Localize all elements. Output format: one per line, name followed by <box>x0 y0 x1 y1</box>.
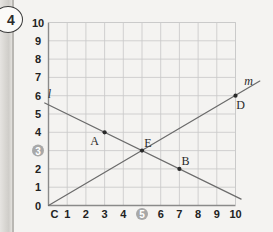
scanned-page: 4 ABDE lm C12345678910 012345678910 <box>0 0 273 232</box>
grid-lines <box>49 23 236 206</box>
line-label-m: m <box>244 74 253 88</box>
point-labels: ABDE <box>90 98 245 168</box>
x-tick-4: 4 <box>120 208 127 220</box>
x-axis-tick-labels: C12345678910 <box>51 208 242 220</box>
y-tick-3: 3 <box>35 146 41 157</box>
y-tick-0: 0 <box>35 200 41 212</box>
x-tick-10: 10 <box>229 208 241 220</box>
y-tick-9: 9 <box>35 35 41 47</box>
point-label-e: E <box>144 136 151 150</box>
x-tick-7: 7 <box>176 208 182 220</box>
x-tick-1: 1 <box>64 208 70 220</box>
y-tick-5: 5 <box>35 108 41 120</box>
y-tick-6: 6 <box>35 90 41 102</box>
x-tick-5: 5 <box>139 209 145 220</box>
x-tick-9: 9 <box>214 208 220 220</box>
y-tick-10: 10 <box>32 17 44 29</box>
x-tick-8: 8 <box>195 208 201 220</box>
graph-svg: ABDE lm C12345678910 012345678910 <box>0 0 273 232</box>
y-tick-2: 2 <box>35 163 41 175</box>
x-tick-C: C <box>51 208 59 220</box>
x-tick-3: 3 <box>102 208 108 220</box>
point-label-d: D <box>236 98 245 112</box>
y-tick-8: 8 <box>35 53 41 65</box>
y-tick-4: 4 <box>35 126 42 138</box>
y-tick-1: 1 <box>35 181 41 193</box>
x-tick-6: 6 <box>158 208 164 220</box>
x-tick-2: 2 <box>83 208 89 220</box>
coordinate-graph: ABDE lm C12345678910 012345678910 <box>0 0 273 232</box>
point-label-a: A <box>90 134 99 148</box>
line-label-l: l <box>48 87 52 101</box>
y-tick-7: 7 <box>35 71 41 83</box>
y-axis-tick-labels: 012345678910 <box>32 17 44 212</box>
point-label-b: B <box>181 154 189 168</box>
